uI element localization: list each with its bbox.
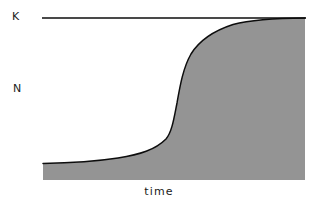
plot-area: [0, 0, 318, 200]
curve-fill-region: [43, 18, 305, 180]
population-axis-label: N: [13, 83, 22, 94]
logistic-growth-figure: K N time: [0, 0, 318, 200]
carrying-capacity-label: K: [12, 11, 20, 22]
time-axis-label: time: [0, 186, 318, 197]
